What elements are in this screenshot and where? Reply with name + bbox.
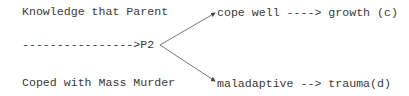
branch-maladaptive: maladaptive --> trauma(d) <box>217 78 391 90</box>
branch-cope-well: cope well ----> growth (c) <box>217 7 398 19</box>
branch-arrow-down <box>160 45 215 81</box>
branch-arrow-up <box>160 13 215 45</box>
